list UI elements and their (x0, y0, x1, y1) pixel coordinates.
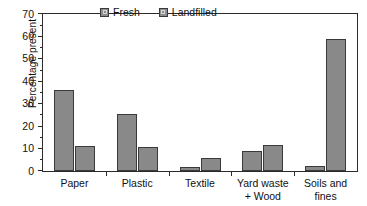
y-axis-minor-tick (40, 137, 43, 138)
x-axis-tick (294, 171, 295, 176)
y-axis-tick-label: 30 (0, 98, 34, 109)
x-axis-category-label: Plastic (106, 177, 169, 190)
y-axis-minor-tick (40, 70, 43, 71)
y-axis-tick (38, 148, 43, 149)
y-axis-tick (38, 36, 43, 37)
bar-landfilled-paper (75, 146, 95, 171)
x-axis-category-label: Soils and fines (294, 177, 357, 202)
y-axis-minor-tick (40, 114, 43, 115)
x-axis-category-label: Textile (169, 177, 232, 190)
x-axis-tick (106, 171, 107, 176)
bar-fresh-soils-and-fines (305, 166, 325, 171)
x-axis-category-label: Yard waste + Wood (231, 177, 294, 202)
legend-item-landfilled: Landfilled (159, 7, 217, 18)
x-axis-tick (169, 171, 170, 176)
bar-fresh-yard-waste-wood (242, 151, 262, 171)
y-axis-tick-label: 20 (0, 121, 34, 132)
x-axis-tick (231, 171, 232, 176)
plot-area: 010203040506070PaperPlasticTextileYard w… (42, 13, 358, 172)
y-axis-minor-tick (40, 92, 43, 93)
bar-fresh-textile (180, 167, 200, 171)
x-axis-category-label: Paper (43, 177, 106, 190)
legend-swatch-icon (159, 8, 168, 17)
y-axis-tick (38, 13, 43, 14)
y-axis-tick (38, 103, 43, 104)
y-axis-tick (38, 58, 43, 59)
y-axis-minor-tick (40, 159, 43, 160)
legend-swatch-icon (100, 8, 109, 17)
chart-legend: Fresh Landfilled (100, 7, 217, 18)
legend-item-fresh: Fresh (100, 7, 140, 18)
bar-landfilled-textile (201, 158, 221, 171)
y-axis-tick-label: 0 (0, 166, 34, 177)
plot-inner: 010203040506070PaperPlasticTextileYard w… (43, 14, 357, 171)
chart-figure: Percentage present 010203040506070PaperP… (0, 0, 367, 206)
legend-label: Fresh (113, 7, 140, 18)
y-axis-minor-tick (40, 47, 43, 48)
y-axis-tick (38, 126, 43, 127)
y-axis-tick-label: 60 (0, 31, 34, 42)
y-axis-tick (38, 81, 43, 82)
y-axis-minor-tick (40, 25, 43, 26)
legend-label: Landfilled (172, 7, 217, 18)
bar-landfilled-yard-waste-wood (263, 145, 283, 171)
y-axis-tick-label: 10 (0, 143, 34, 154)
bar-landfilled-plastic (138, 147, 158, 171)
bar-fresh-plastic (117, 114, 137, 171)
bar-fresh-paper (54, 90, 74, 171)
y-axis-tick-label: 50 (0, 53, 34, 64)
y-axis-tick-label: 40 (0, 76, 34, 87)
y-axis-tick-label: 70 (0, 9, 34, 20)
y-axis-tick (38, 170, 43, 171)
bar-landfilled-soils-and-fines (326, 39, 346, 171)
